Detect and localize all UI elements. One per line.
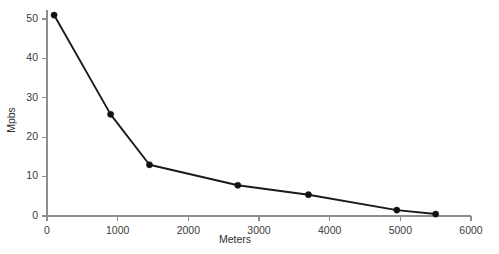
line-chart-plot: 01020304050 0100020003000400050006000 Me… (0, 0, 499, 254)
x-axis-title: Meters (219, 233, 251, 245)
y-tick-label: 10 (26, 169, 38, 181)
series-data-point (235, 182, 241, 188)
x-tick-label: 6000 (459, 224, 483, 236)
series-data-point (305, 192, 311, 198)
y-axis-ticks: 01020304050 (26, 12, 47, 221)
series-data-point (146, 162, 152, 168)
x-tick-label: 1000 (106, 224, 130, 236)
y-tick-label: 0 (32, 209, 38, 221)
y-axis-title: Mpbs (5, 107, 17, 133)
series-data-point (394, 207, 400, 213)
y-tick-label: 30 (26, 91, 38, 103)
series-data-point (108, 111, 114, 117)
y-tick-label: 20 (26, 130, 38, 142)
series-data-point (433, 211, 439, 217)
x-tick-label: 2000 (177, 224, 201, 236)
y-tick-label: 50 (26, 12, 38, 24)
x-tick-label: 4000 (318, 224, 342, 236)
y-tick-label: 40 (26, 51, 38, 63)
chart-container: 01020304050 0100020003000400050006000 Me… (0, 0, 499, 254)
x-tick-label: 0 (44, 224, 50, 236)
x-axis-ticks: 0100020003000400050006000 (44, 216, 483, 236)
x-tick-label: 5000 (389, 224, 413, 236)
series-data-point (51, 12, 57, 18)
data-series-layer (51, 12, 439, 217)
